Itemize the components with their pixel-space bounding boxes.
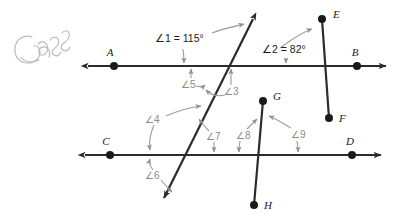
point-e-dot	[318, 15, 326, 23]
handwritten-class-annotation	[15, 31, 70, 63]
angle-5-label: ∠5	[181, 79, 196, 90]
angle-4-leaders	[150, 106, 201, 150]
point-h-dot	[250, 201, 258, 209]
point-label-d: D	[345, 135, 354, 147]
point-f-dot	[325, 114, 333, 122]
point-label-b: B	[352, 46, 359, 58]
point-a-dot	[110, 62, 118, 70]
point-d-dot	[348, 151, 356, 159]
point-g-dot	[259, 97, 267, 105]
diagram-canvas: A B C D E F G H ∠1 = 115° ∠2 = 82° ∠5	[0, 0, 394, 222]
point-label-f: F	[338, 112, 346, 124]
angle-7-label: ∠7	[206, 131, 221, 142]
angle-9-label: ∠9	[291, 129, 306, 140]
geometry-diagram: A B C D E F G H ∠1 = 115° ∠2 = 82° ∠5	[0, 0, 394, 222]
segment-gh	[254, 101, 263, 205]
point-label-a: A	[106, 46, 114, 58]
point-b-dot	[353, 62, 361, 70]
point-c-dot	[106, 151, 114, 159]
angle-3-label: ∠3	[224, 86, 239, 97]
point-label-h: H	[263, 199, 273, 211]
angle-4-label: ∠4	[145, 114, 160, 125]
segment-ef	[322, 19, 329, 118]
angle-8-label: ∠8	[236, 130, 251, 141]
point-label-c: C	[102, 135, 110, 147]
angle-6-label: ∠6	[145, 170, 160, 181]
transversal-line	[164, 19, 253, 198]
angle-1-label: ∠1 = 115°	[155, 32, 204, 44]
point-label-e: E	[332, 8, 340, 20]
angle-2-label: ∠2 = 82°	[262, 43, 306, 55]
point-label-g: G	[273, 90, 281, 102]
